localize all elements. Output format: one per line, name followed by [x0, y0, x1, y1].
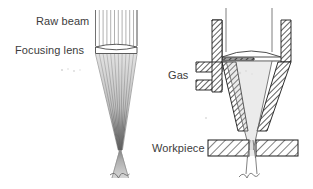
beam-cone-lower [112, 152, 130, 178]
left-optics-group: Raw beam Focusing lens [15, 10, 137, 178]
workpiece-left-bar [208, 140, 249, 156]
raw-beam-rays [96, 10, 138, 46]
nozzle-left-connector [212, 62, 222, 92]
diagram-canvas: Raw beam Focusing lens [0, 0, 313, 189]
scan-artifacts [61, 68, 81, 72]
focusing-lens-element [96, 44, 138, 53]
workpiece-right-bar [256, 140, 298, 156]
dross-curve [239, 173, 260, 178]
label-focusing-lens: Focusing lens [15, 44, 85, 56]
laser-cutting-diagram: Raw beam Focusing lens [0, 0, 313, 189]
raw-beam-envelope [96, 10, 138, 46]
label-gas: Gas [168, 69, 189, 81]
exit-plume [246, 156, 257, 174]
nozzle-right-wall [281, 20, 291, 62]
nozzle-incoming-beam [226, 8, 272, 52]
beam-cone-upper [96, 54, 138, 152]
label-raw-beam: Raw beam [36, 15, 89, 27]
right-nozzle-group: Gas Workpiece [152, 8, 298, 178]
label-workpiece: Workpiece [152, 142, 205, 154]
